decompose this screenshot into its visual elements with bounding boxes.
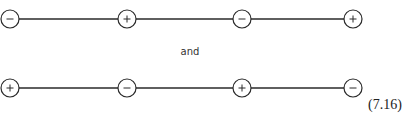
negative-charge-icon	[344, 79, 362, 97]
equation-number: (7.16)	[368, 97, 402, 113]
charge-chain-row-1	[1, 10, 362, 28]
negative-charge-icon	[118, 79, 136, 97]
charge-chain-row-2	[1, 79, 362, 97]
positive-charge-icon	[118, 10, 136, 28]
negative-charge-icon	[1, 10, 19, 28]
positive-charge-icon	[344, 10, 362, 28]
positive-charge-icon	[233, 79, 251, 97]
charge-chain-diagram	[0, 0, 407, 123]
positive-charge-icon	[1, 79, 19, 97]
negative-charge-icon	[233, 10, 251, 28]
connector-text: and	[178, 46, 202, 57]
